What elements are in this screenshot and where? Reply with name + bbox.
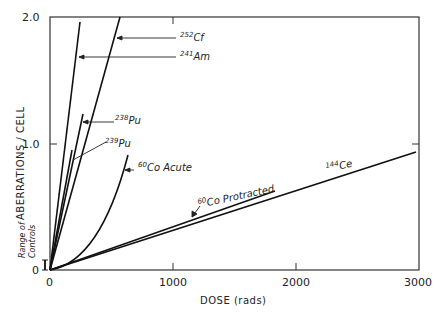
x-tick-2000: 2000 [282, 276, 310, 289]
x-axis-label: DOSE (rads) [200, 295, 267, 306]
controls-range-marker [42, 260, 48, 270]
line-pu239 [50, 150, 72, 270]
label-cf252: 252Cf [180, 31, 205, 43]
x-tick-1000: 1000 [159, 276, 187, 289]
line-ce144 [50, 152, 416, 270]
y-tick-2: 2.0 [22, 11, 40, 24]
label-ce144: 144Ce [325, 157, 353, 174]
x-tick-0: 0 [46, 276, 53, 289]
label-leaders [73, 36, 200, 217]
line-co60-protracted [50, 191, 275, 270]
controls-label-1: Range of [18, 221, 27, 258]
label-am241: 241Am [180, 50, 210, 62]
label-pu238: 238Pu [115, 114, 141, 126]
label-co60-acute: 60Co Acute [138, 161, 192, 173]
label-co60-protracted: 60Co Protracted [197, 182, 276, 210]
chart: 2.0 1.0 0 0 1000 2000 3000 DOSE (rads) A… [0, 0, 446, 314]
x-tick-3000: 3000 [404, 276, 432, 289]
controls-label-2: Controls [28, 225, 37, 258]
y-tick-0: 0 [32, 264, 39, 277]
y-axis-label: ABERRATIONS / CELL [15, 106, 26, 220]
label-pu239: 239Pu [105, 137, 131, 149]
